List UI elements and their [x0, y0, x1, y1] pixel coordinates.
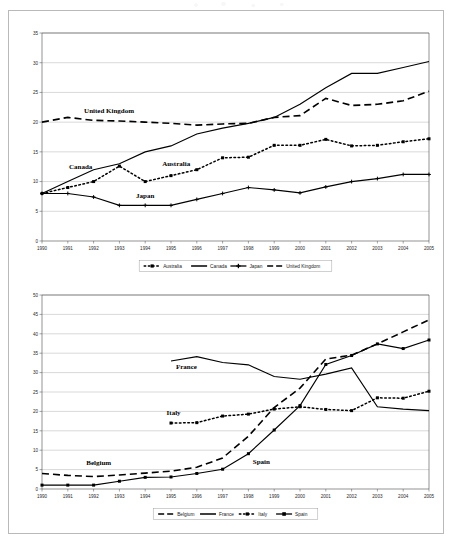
series-marker-square [376, 144, 379, 147]
series-marker-square [350, 354, 353, 357]
series-marker-square [195, 421, 198, 424]
series-marker-plus [401, 173, 405, 177]
x-axis-tick-label: 2004 [398, 246, 409, 251]
line-chart-bottom: 0510152025303540455019901991199219931994… [9, 283, 445, 527]
x-axis-tick-label: 1998 [243, 246, 254, 251]
y-axis-tick-label: 50 [33, 293, 39, 298]
x-axis-tick-label: 1997 [217, 246, 228, 251]
series-marker-square [221, 156, 224, 159]
series-marker-square [350, 409, 353, 412]
y-axis-tick-label: 30 [33, 61, 39, 66]
series-marker-plus [324, 185, 328, 189]
series-marker-square [299, 144, 302, 147]
legend-label: Spain [295, 512, 308, 517]
series-annotation-label: France [176, 363, 197, 371]
y-axis-tick-label: 35 [33, 31, 39, 36]
series-marker-square [247, 413, 250, 416]
legend-label: Belgium [177, 512, 194, 517]
y-axis-tick-label: 10 [33, 179, 39, 184]
series-marker-square [247, 156, 250, 159]
series-annotation-label: Australia [162, 160, 191, 168]
y-axis-tick-label: 45 [33, 312, 39, 317]
series-annotation-label: Belgium [86, 459, 111, 467]
x-axis-tick-label: 2000 [295, 246, 306, 251]
series-line [42, 62, 429, 194]
y-axis-tick-label: 5 [35, 467, 38, 472]
series-marker-square [273, 144, 276, 147]
y-axis-tick-label: 0 [35, 487, 38, 492]
series-marker-square [170, 174, 173, 177]
series-marker-square [195, 168, 198, 171]
y-axis-tick-label: 15 [33, 429, 39, 434]
series-marker-square [273, 408, 276, 411]
series-marker-square [92, 484, 95, 487]
y-axis-tick-label: 40 [33, 332, 39, 337]
legend-label: France [219, 512, 234, 517]
x-axis-tick-label: 1998 [243, 494, 254, 499]
series-marker-square [247, 452, 250, 455]
x-axis-tick-label: 2002 [346, 246, 357, 251]
chart-top-container: 0510152025303519901991199219931994199519… [9, 19, 445, 277]
series-line [42, 174, 429, 205]
y-axis-tick-label: 35 [33, 351, 39, 356]
legend-label: Japan [249, 264, 262, 269]
series-marker-square [92, 180, 95, 183]
x-axis-tick-label: 1990 [37, 494, 48, 499]
series-marker-plus [195, 198, 199, 202]
series-marker-square [376, 342, 379, 345]
x-axis-tick-label: 1991 [63, 246, 74, 251]
series-marker-square [41, 484, 44, 487]
legend-label: Australia [163, 264, 182, 269]
line-chart-top: 0510152025303519901991199219931994199519… [9, 19, 445, 277]
y-axis-tick-label: 30 [33, 370, 39, 375]
y-axis-tick-label: 0 [35, 239, 38, 244]
x-axis-tick-label: 2003 [372, 494, 383, 499]
x-axis-tick-label: 2004 [398, 494, 409, 499]
series-marker-square [221, 468, 224, 471]
series-marker-square [428, 390, 431, 393]
series-marker-square [428, 137, 431, 140]
x-axis-tick-label: 2003 [372, 246, 383, 251]
series-marker-square [402, 347, 405, 350]
x-axis-tick-label: 2001 [321, 494, 332, 499]
series-marker-square [350, 144, 353, 147]
legend-label: Italy [258, 512, 267, 517]
series-marker-plus [272, 188, 276, 192]
x-axis-tick-label: 1995 [166, 494, 177, 499]
series-annotation-label: Spain [253, 458, 270, 466]
series-marker-plus [92, 195, 96, 199]
series-marker-plus [247, 186, 251, 190]
series-marker-square [66, 484, 69, 487]
series-marker-square [428, 339, 431, 342]
series-annotation-label: United Kingdom [84, 107, 134, 115]
series-marker-square [170, 422, 173, 425]
figure-frame: 0510152025303519901991199219931994199519… [8, 10, 444, 534]
series-marker-square [144, 476, 147, 479]
series-annotation-label: Italy [167, 409, 182, 417]
x-axis-tick-label: 2002 [346, 494, 357, 499]
series-marker-square [221, 415, 224, 418]
series-line [42, 139, 429, 194]
series-marker-square [195, 472, 198, 475]
x-axis-tick-label: 1999 [269, 494, 280, 499]
series-line [42, 320, 429, 477]
x-axis-tick-label: 1995 [166, 246, 177, 251]
series-marker-square [299, 404, 302, 407]
series-marker-plus [427, 173, 431, 177]
series-marker-square [402, 397, 405, 400]
x-axis-tick-label: 1992 [88, 246, 99, 251]
series-marker-square [118, 165, 121, 168]
x-axis-tick-label: 2001 [321, 246, 332, 251]
series-marker-square [324, 363, 327, 366]
y-axis-tick-label: 5 [35, 209, 38, 214]
series-marker-plus [376, 177, 380, 181]
series-marker-square [273, 429, 276, 432]
x-axis-tick-label: 1993 [114, 494, 125, 499]
series-marker-square [118, 480, 121, 483]
series-marker-square [144, 180, 147, 183]
y-axis-tick-label: 20 [33, 409, 39, 414]
x-axis-tick-label: 1993 [114, 246, 125, 251]
x-axis-tick-label: 1996 [192, 494, 203, 499]
series-marker-square [170, 475, 173, 478]
screenshot-page: 0510152025303519901991199219931994199519… [0, 0, 453, 544]
